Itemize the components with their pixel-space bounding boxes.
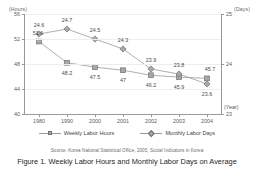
diamond-marker-icon: [64, 26, 70, 32]
plot-area: 4044485256232425198019902000200120022003…: [24, 14, 222, 115]
x-axis-tick: [67, 114, 68, 117]
y-axis-tick: [22, 14, 25, 15]
data-point-label: 51.6: [33, 30, 44, 36]
chart-legend: Weekly Labor Hours Monthly Labor Days: [0, 130, 254, 136]
x-axis-tick: [39, 114, 40, 117]
x-axis-tick: [123, 114, 124, 117]
x-axis-tick: [151, 114, 152, 117]
y-axis-tick-label: 52: [14, 36, 20, 42]
legend-label: Weekly Labor Hours: [64, 130, 115, 136]
diamond-marker-icon: [204, 81, 210, 87]
y2-axis-tick-label: 24: [226, 61, 232, 67]
data-point-label: 24.7: [62, 17, 73, 23]
clipped-title-strip: [0, 0, 254, 5]
data-point-label: 24.5: [90, 27, 101, 33]
y-axis-tick-label: 48: [14, 61, 20, 67]
y-axis-tick: [22, 64, 25, 65]
data-point-label: 23.6: [202, 91, 213, 97]
x-axis-tick-label: 2004: [201, 118, 213, 124]
data-point-label: 24.3: [118, 37, 129, 43]
legend-label: Monthly Labor Days: [165, 130, 215, 136]
x-axis-tick-label: 2001: [117, 118, 129, 124]
y-axis-tick-label: 44: [14, 86, 20, 92]
y2-axis-tick-label: 25: [226, 11, 232, 17]
diamond-marker-icon: [120, 46, 126, 52]
source-note: Source: Korea National Statistical Offic…: [0, 148, 254, 153]
data-point-label: 46.2: [146, 82, 157, 88]
data-point-label: 24.6: [34, 22, 45, 28]
legend-item-monthly-labor-days[interactable]: Monthly Labor Days: [140, 130, 215, 136]
square-marker-icon: [93, 65, 98, 70]
square-marker-icon: [39, 133, 61, 134]
x-axis-unit-label: (Year): [224, 104, 238, 110]
y2-axis-tick: [221, 114, 224, 115]
x-axis-tick-label: 2000: [89, 118, 101, 124]
data-point-label: 47: [120, 77, 126, 83]
figure-container: (Hours) (Days) 4044485256232425198019902…: [0, 0, 254, 171]
data-point-label: 45.7: [205, 66, 216, 72]
data-point-label: 45.9: [174, 84, 185, 90]
gridline: [25, 14, 221, 15]
y2-axis-tick: [221, 14, 224, 15]
data-point-label: 48.2: [62, 70, 73, 76]
square-marker-icon: [121, 68, 126, 73]
y2-axis-tick: [221, 64, 224, 65]
x-axis-tick: [179, 114, 180, 117]
diamond-marker-icon: [140, 133, 162, 134]
data-point-label: 23.9: [146, 57, 157, 63]
y-axis-tick: [22, 89, 25, 90]
x-axis-tick: [207, 114, 208, 117]
square-marker-icon: [149, 73, 154, 78]
figure-caption: Figure 1. Weekly Labor Hours and Monthly…: [0, 157, 254, 166]
y-axis-tick: [22, 114, 25, 115]
data-point-label: 23.8: [174, 62, 185, 68]
x-axis-tick-label: 1980: [33, 118, 45, 124]
right-axis-unit-label: (Days): [234, 6, 250, 12]
x-axis-tick: [95, 114, 96, 117]
y-axis-tick: [22, 39, 25, 40]
legend-item-weekly-labor-hours[interactable]: Weekly Labor Hours: [39, 130, 115, 136]
diamond-marker-icon: [148, 66, 154, 72]
data-point-label: 47.5: [90, 74, 101, 80]
y-axis-tick-label: 40: [14, 111, 20, 117]
square-marker-icon: [205, 76, 210, 81]
x-axis-tick-label: 2002: [145, 118, 157, 124]
x-axis-tick-label: 1990: [61, 118, 73, 124]
y-axis-tick-label: 56: [14, 11, 20, 17]
gridline: [25, 89, 221, 90]
gridline: [25, 64, 221, 65]
x-axis-tick-label: 2003: [173, 118, 185, 124]
y2-axis-tick-label: 23: [226, 111, 232, 117]
